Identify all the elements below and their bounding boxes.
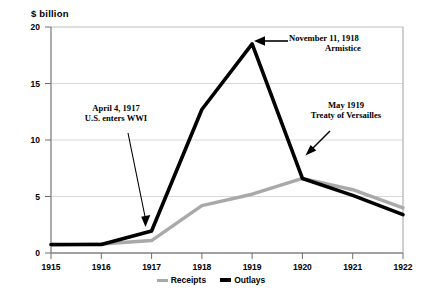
y-tick-label-0: 0 bbox=[18, 248, 40, 258]
legend-item-outlays: Outlays bbox=[220, 275, 265, 285]
annotation-armistice-line2: Armistice bbox=[289, 43, 397, 53]
y-tick-label-20: 20 bbox=[18, 22, 40, 32]
x-tick-label-1921: 1921 bbox=[336, 262, 370, 272]
x-tick-label-1915: 1915 bbox=[34, 262, 68, 272]
annotation-treaty-of-versailles-line1: May 1919 bbox=[288, 100, 404, 110]
legend-item-receipts: Receipts bbox=[157, 275, 206, 285]
legend-swatch-outlays-icon bbox=[220, 278, 231, 282]
series-line-outlays bbox=[51, 44, 403, 245]
legend-label-receipts: Receipts bbox=[171, 275, 206, 285]
y-axis-ticks bbox=[45, 27, 51, 253]
x-tick-label-1922: 1922 bbox=[386, 262, 420, 272]
x-tick-label-1919: 1919 bbox=[235, 262, 269, 272]
legend-label-outlays: Outlays bbox=[234, 275, 265, 285]
arrow-us-enters-wwi bbox=[128, 133, 150, 227]
x-tick-label-1918: 1918 bbox=[185, 262, 219, 272]
y-tick-label-5: 5 bbox=[18, 192, 40, 202]
annotation-us-enters-wwi-line1: April 4, 1917 bbox=[63, 103, 169, 113]
annotation-armistice: November 11, 1918 Armistice bbox=[289, 33, 413, 54]
annotation-treaty-of-versailles-line2: Treaty of Versailles bbox=[288, 110, 404, 120]
annotation-us-enters-wwi-line2: U.S. enters WWI bbox=[63, 113, 169, 123]
y-tick-label-10: 10 bbox=[18, 135, 40, 145]
x-tick-label-1920: 1920 bbox=[285, 262, 319, 272]
x-tick-label-1917: 1917 bbox=[135, 262, 169, 272]
chart-legend: Receipts Outlays bbox=[0, 275, 422, 285]
annotation-treaty-of-versailles: May 1919 Treaty of Versailles bbox=[288, 100, 404, 121]
series-line-receipts bbox=[51, 178, 403, 245]
y-axis-unit-label: $ billion bbox=[31, 8, 69, 19]
annotation-armistice-line1: November 11, 1918 bbox=[289, 33, 413, 43]
y-tick-label-15: 15 bbox=[18, 79, 40, 89]
arrow-armistice bbox=[254, 36, 288, 46]
arrow-treaty-of-versailles bbox=[306, 131, 331, 156]
chart-container: $ billion 20 15 10 5 0 1915 1916 1917 19… bbox=[0, 0, 422, 293]
x-axis-ticks bbox=[51, 253, 403, 259]
x-tick-label-1916: 1916 bbox=[84, 262, 118, 272]
annotation-us-enters-wwi: April 4, 1917 U.S. enters WWI bbox=[63, 103, 169, 124]
legend-swatch-receipts-icon bbox=[157, 279, 168, 282]
